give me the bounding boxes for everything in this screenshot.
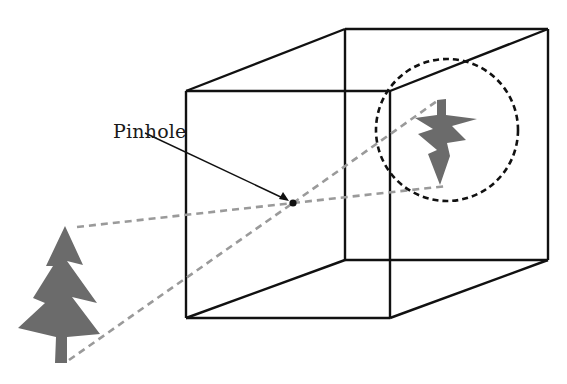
pinhole-dot (289, 199, 296, 206)
pinhole-pointer-arrow (145, 133, 289, 201)
upright-tree-icon (18, 226, 100, 363)
cube-front-face (186, 91, 390, 318)
ray-top-continued (293, 186, 447, 203)
ray-bottom (69, 203, 293, 360)
pinhole-label: Pinhole (113, 120, 187, 142)
pinhole-camera-diagram: Pinhole (0, 0, 567, 384)
inverted-tree-icon (415, 99, 477, 185)
diagram-canvas (0, 0, 567, 384)
ray-bottom-continued (293, 101, 437, 203)
cube-depth-edges (186, 29, 548, 318)
